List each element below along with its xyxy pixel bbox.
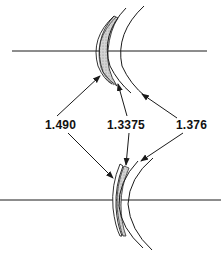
label-tear-index: 1.3375 xyxy=(107,118,145,132)
arrow-1376-bottom xyxy=(141,133,183,161)
arrow-1490-top xyxy=(57,76,100,116)
arrow-13375-top xyxy=(118,84,127,116)
arrow-1376-top xyxy=(142,94,177,118)
top-lens-configuration xyxy=(12,6,207,97)
label-cornea-index: 1.376 xyxy=(176,118,207,132)
label-lens-index: 1.490 xyxy=(45,118,76,132)
arrow-1490-bottom xyxy=(68,133,113,178)
bottom-lens-configuration xyxy=(0,158,221,250)
arrow-13375-bottom xyxy=(126,133,129,165)
